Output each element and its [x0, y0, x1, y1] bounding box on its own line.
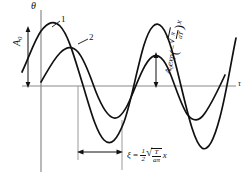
figure-container: θ τ A0 1 2 A0exp(−πaT) x ξ = 12Taπ x	[0, 0, 251, 180]
amplitude-a0-label: A0	[12, 36, 24, 46]
amplitude-a0-symbol: A	[11, 40, 22, 46]
curve-2-label: 2	[89, 33, 94, 42]
xi-root-denominator: aπ	[152, 157, 161, 164]
envelope-variable: x	[173, 19, 184, 25]
envelope-sqrt: πaT	[167, 27, 186, 46]
xi-sqrt: Taπ	[146, 148, 162, 165]
xi-symbol: ξ	[127, 150, 131, 160]
xi-root-fraction: Taπ	[152, 149, 161, 165]
envelope-fraction: πaT	[169, 29, 185, 41]
tau-axis-label: τ	[238, 80, 241, 88]
temperature-wave-plot	[0, 0, 251, 180]
theta-axis-label: θ	[31, 1, 36, 11]
envelope-denominator: aT	[177, 30, 186, 40]
envelope-exp: exp	[164, 53, 176, 67]
xi-variable: x	[163, 150, 167, 160]
amplitude-a0-subscript: 0	[16, 36, 23, 39]
xi-equals: =	[133, 150, 138, 160]
plot-background	[0, 0, 251, 180]
phase-lag-formula: ξ = 12Taπ x	[127, 148, 167, 165]
curve-1-label: 1	[61, 15, 66, 24]
